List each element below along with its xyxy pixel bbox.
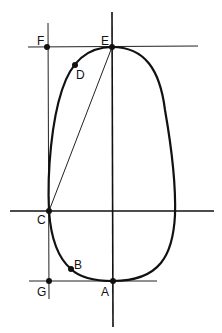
- point-f: [44, 44, 50, 50]
- point-e: [109, 44, 115, 50]
- point-g: [46, 278, 52, 284]
- label-a: A: [101, 285, 109, 299]
- label-b: B: [74, 258, 82, 272]
- point-a: [110, 278, 116, 284]
- point-c: [46, 208, 52, 214]
- label-d: D: [76, 68, 85, 82]
- label-g: G: [37, 285, 46, 299]
- geometry-diagram: F E D C B G A: [0, 0, 222, 333]
- label-e: E: [101, 34, 109, 48]
- label-f: F: [37, 34, 44, 48]
- label-c: C: [37, 213, 46, 227]
